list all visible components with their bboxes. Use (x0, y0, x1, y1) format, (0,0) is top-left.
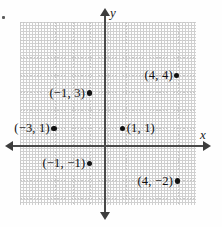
y-axis-label: y (110, 6, 116, 19)
point-label: (1, 1) (127, 122, 155, 135)
plotted-point: (4, 4) (145, 69, 180, 82)
point-marker-dot (175, 178, 180, 183)
point-marker-dot (51, 126, 56, 131)
point-marker-dot (87, 90, 92, 95)
point-label: (−1, −1) (43, 157, 86, 170)
point-label: (4, 4) (145, 69, 173, 82)
y-axis-arrow-down-icon (100, 212, 110, 220)
y-axis-line (104, 14, 106, 215)
plotted-point: (4, −2) (138, 175, 180, 188)
point-label: (−1, 3) (50, 87, 86, 100)
x-axis-label: x (200, 128, 206, 141)
point-marker-dot (120, 126, 125, 131)
point-label: (4, −2) (138, 175, 174, 188)
scan-artifact-speck (2, 16, 5, 19)
point-marker-dot (87, 161, 92, 166)
x-axis-arrow-left-icon (5, 141, 13, 151)
x-axis-arrow-right-icon (203, 141, 211, 151)
plotted-point: (−3, 1) (14, 122, 56, 135)
point-marker-dot (174, 73, 179, 78)
coordinate-plane-figure: y x (4, 4)(−1, 3)(−3, 1)(1, 1)(−1, −1)(4… (0, 0, 222, 227)
plotted-point: (−1, −1) (43, 157, 92, 170)
x-axis-line (12, 145, 208, 147)
plotted-point: (−1, 3) (50, 87, 92, 100)
plotted-point: (1, 1) (120, 122, 155, 135)
y-axis-arrow-up-icon (100, 8, 110, 16)
point-label: (−3, 1) (14, 122, 50, 135)
